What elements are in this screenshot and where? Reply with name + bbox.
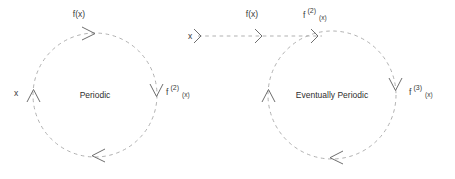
eventually-periodic-center-label: Eventually Periodic: [296, 90, 369, 100]
eventually-periodic-label-f2x-base: f: [303, 10, 306, 20]
eventually-periodic-diagram-group: x f(x) f (2) (x) f (3) (x) Eventually Pe…: [188, 7, 433, 164]
periodic-center-label: Periodic: [80, 90, 111, 100]
periodic-label-f2x-superscript: (2): [171, 84, 180, 92]
periodic-label-f2x: f (2) (x): [166, 84, 190, 99]
eventually-periodic-label-f3x-superscript: (3): [414, 84, 423, 92]
eventually-periodic-label-f3x: f (3) (x): [409, 84, 433, 99]
periodic-label-x: x: [14, 88, 19, 98]
eventually-periodic-label-f2x-superscript: (2): [308, 7, 317, 15]
diagram-canvas: f(x) x f (2) (x) Periodic: [0, 0, 455, 179]
eventually-periodic-label-fx: f(x): [246, 9, 258, 19]
eventually-periodic-arrow-bottom-icon: [330, 151, 343, 164]
periodic-arrow-top-icon: [82, 27, 95, 40]
eventually-periodic-label-f2x-subscript: (x): [319, 14, 327, 22]
periodic-arrow-bottom-icon: [92, 149, 105, 162]
eventually-periodic-label-f2x: f (2) (x): [303, 7, 327, 22]
eventually-periodic-label-x: x: [188, 31, 193, 41]
eventually-periodic-label-f3x-subscript: (x): [425, 91, 433, 99]
periodic-label-f2x-base: f: [166, 87, 169, 97]
periodic-label-f2x-subscript: (x): [182, 91, 190, 99]
periodic-diagram-group: f(x) x f (2) (x) Periodic: [14, 9, 190, 162]
eventually-periodic-label-f3x-base: f: [409, 87, 412, 97]
orbit-diagram-figure: f(x) x f (2) (x) Periodic: [0, 0, 455, 179]
periodic-label-fx: f(x): [73, 9, 85, 19]
